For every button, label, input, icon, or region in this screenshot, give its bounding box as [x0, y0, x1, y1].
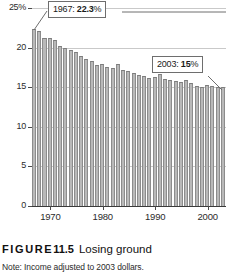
callout-prefix: 2003:	[157, 59, 181, 69]
figure-container: 25%20151050 1970198019902000 1967: 22.3%…	[0, 0, 234, 277]
figure-number: 11.5	[53, 243, 74, 255]
callout-value: 22.3	[77, 4, 94, 14]
first-year-callout: 1967: 22.3%	[48, 1, 106, 18]
figure-label: FIGURE	[2, 243, 53, 255]
figure-caption: FIGURE11.5Losing ground	[2, 243, 152, 255]
callout-suffix: %	[190, 59, 198, 69]
callout-prefix: 1967:	[53, 4, 77, 14]
callout-suffix: %	[94, 4, 102, 14]
figure-note: Note: Income adjusted to 2003 dollars.	[2, 262, 144, 272]
callout-value: 15	[181, 59, 191, 69]
figure-title: Losing ground	[79, 243, 152, 255]
last-year-callout: 2003: 15%	[152, 56, 203, 73]
callout-leader-lines	[0, 0, 234, 277]
